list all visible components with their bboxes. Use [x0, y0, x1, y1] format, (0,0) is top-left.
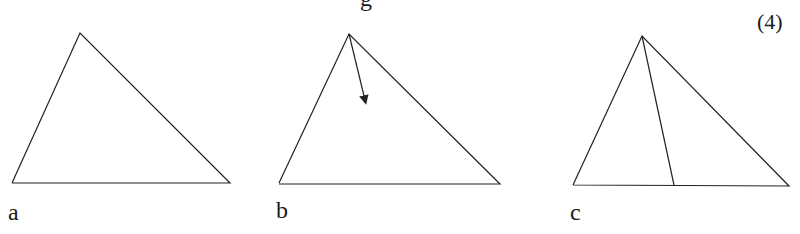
- apex-to-base-line: [642, 36, 674, 185]
- figure-label-a: a: [8, 200, 19, 224]
- triangle-c: [573, 36, 789, 186]
- triangle-a: [12, 33, 230, 183]
- figure-label-c: c: [570, 200, 581, 224]
- triangles-diagram: [0, 0, 800, 234]
- arrow-icon: [349, 34, 365, 100]
- figure-label-b: b: [276, 198, 288, 222]
- triangle-b: [279, 34, 500, 184]
